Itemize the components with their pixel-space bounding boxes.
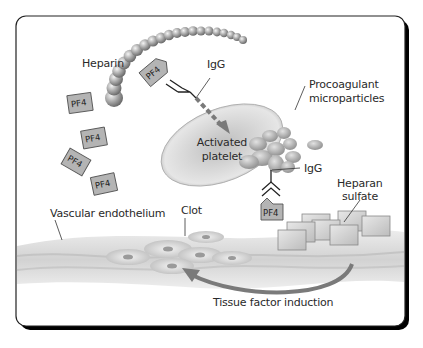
label-tissue-factor-induction: Tissue factor induction xyxy=(213,296,333,309)
label-igg-top: IgG xyxy=(207,58,225,71)
diagram-canvas: PF4 PF4 PF4 PF4 PF4 PF4 xyxy=(0,0,423,348)
label-heparan-1: Heparan xyxy=(337,177,383,190)
label-procoagulant-1: Procoagulant xyxy=(309,78,379,91)
label-heparin: Heparin xyxy=(82,57,124,70)
label-heparan-2: sulfate xyxy=(342,190,378,203)
label-igg-right: IgG xyxy=(304,162,322,175)
label-vascular-endothelium: Vascular endothelium xyxy=(50,207,165,220)
label-activated-platelet-1: Activated xyxy=(186,136,258,149)
svg-text:PF4: PF4 xyxy=(70,97,87,109)
svg-text:PF4: PF4 xyxy=(263,208,278,218)
pf4-free-2: PF4 xyxy=(81,127,108,149)
label-activated-platelet-2: platelet xyxy=(186,150,258,163)
pf4-free-1: PF4 xyxy=(67,92,93,113)
diagram-figure: PF4 PF4 PF4 PF4 PF4 PF4 Hepar xyxy=(0,0,423,348)
label-clot: Clot xyxy=(181,204,202,217)
label-procoagulant-2: microparticles xyxy=(309,92,384,105)
